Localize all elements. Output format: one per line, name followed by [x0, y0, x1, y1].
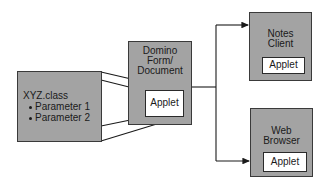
web-browser-label: Web Browser [251, 126, 312, 146]
notes-client-label: Notes Client [250, 29, 311, 49]
xyz-class-text: XYZ.class Parameter 1 Parameter 2 [23, 90, 90, 123]
bullet-icon [29, 106, 32, 109]
bullet-icon [29, 117, 32, 120]
class-name: XYZ.class [23, 90, 90, 101]
parameter-item: Parameter 1 [23, 101, 90, 112]
web-browser-applet-box: Applet [263, 152, 307, 172]
notes-client-applet-box: Applet [262, 57, 305, 74]
notes-client-box: Notes Client Applet [249, 12, 312, 81]
xyz-class-box: XYZ.class Parameter 1 Parameter 2 [17, 71, 102, 142]
parameter-item: Parameter 2 [23, 112, 90, 123]
domino-label: Domino Form/ Document [129, 46, 191, 76]
domino-applet-box: Applet [145, 90, 184, 117]
web-browser-box: Web Browser Applet [250, 108, 313, 177]
distribution-lines [192, 25, 249, 161]
